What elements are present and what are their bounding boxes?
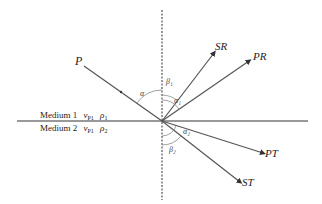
angle-label-beta1: β₁ [165, 77, 173, 86]
angle-label-alpha1: α₁ [174, 96, 181, 105]
medium2-label: Medium 2 vP1 ρ2 [40, 123, 107, 135]
label-st: ST [242, 176, 255, 188]
label-pt: PT [264, 147, 279, 159]
angle-label-alpha2: α₂ [183, 127, 190, 136]
reflection-transmission-diagram: P SR PR PT ST α β₁ α₁ α₂ β₂ Medium 1 vP1… [0, 0, 322, 204]
reflected-ray-pr [162, 61, 249, 121]
reflected-ray-sr [162, 53, 214, 121]
label-sr: SR [215, 40, 228, 52]
angle-arc-beta2 [162, 136, 181, 145]
angle-label-beta2: β₂ [168, 145, 176, 154]
medium1-label: Medium 1 vP1 ρ1 [40, 110, 107, 122]
label-pr: PR [252, 50, 267, 62]
angle-label-alpha: α [140, 89, 145, 98]
label-p: P [74, 54, 83, 68]
incident-arrow-icon [120, 91, 122, 93]
transmitted-ray-pt [162, 121, 263, 153]
